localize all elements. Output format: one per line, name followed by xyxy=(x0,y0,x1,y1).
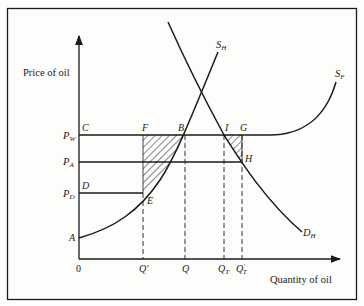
point-d-label: D xyxy=(81,180,90,191)
domestic-demand-curve-dh xyxy=(168,22,302,232)
sh-curve-label: SH xyxy=(216,39,227,52)
foreign-supply-curve-sf xyxy=(79,82,336,135)
point-b-label: B xyxy=(178,122,184,133)
point-h-label: H xyxy=(244,153,253,164)
point-a-label: A xyxy=(68,232,76,243)
sf-curve-label: SF xyxy=(335,68,345,81)
point-c-label: C xyxy=(82,122,89,133)
oil-market-diagram: Price of oil Quantity of oil 0 PW PA PD … xyxy=(0,0,364,306)
origin-label: 0 xyxy=(76,263,81,274)
q-prime-label: Q′ xyxy=(139,263,149,274)
q-label: Q xyxy=(182,263,190,274)
dh-curve-label: DH xyxy=(302,227,317,240)
y-axis-label: Price of oil xyxy=(23,67,70,78)
point-f-label: F xyxy=(141,122,149,133)
qt-label: QT xyxy=(218,263,230,276)
point-i-label: I xyxy=(224,122,229,133)
diagram-canvas: Price of oil Quantity of oil 0 PW PA PD … xyxy=(0,0,364,306)
pw-label: PW xyxy=(62,130,76,143)
point-e-label: E xyxy=(146,195,153,206)
point-g-label: G xyxy=(240,122,247,133)
x-axis-label: Quantity of oil xyxy=(270,274,332,285)
qt-prime-label: Q′T xyxy=(236,262,248,276)
pd-label: PD xyxy=(62,188,74,201)
pa-label: PA xyxy=(62,156,74,169)
